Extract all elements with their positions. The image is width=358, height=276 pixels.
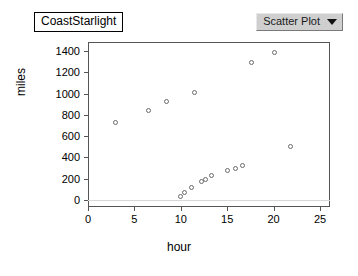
x-axis-tick-label: 15 [212, 214, 242, 225]
x-axis-tick-label: 10 [166, 214, 196, 225]
y-axis-tick [84, 200, 88, 201]
data-point[interactable] [209, 173, 214, 178]
y-axis-tick-label: 400 [62, 152, 80, 163]
y-axis-tick [84, 94, 88, 95]
x-axis-tick [181, 207, 182, 211]
scatter-plot: 02004006008001000120014000510152025 mile… [0, 0, 358, 276]
y-axis-tick [84, 115, 88, 116]
x-axis-tick-label: 0 [73, 214, 103, 225]
x-axis-tick-label: 20 [259, 214, 289, 225]
y-axis-tick [84, 51, 88, 52]
x-axis-title: hour [0, 240, 358, 254]
x-axis-tick-label: 25 [305, 214, 335, 225]
y-axis-tick-label: 600 [62, 131, 80, 142]
x-axis-tick [88, 207, 89, 211]
y-axis-tick-label: 1400 [56, 46, 80, 57]
y-axis-tick [84, 72, 88, 73]
y-axis-tick [84, 179, 88, 180]
y-axis-tick-label: 1000 [56, 89, 80, 100]
x-axis-tick [320, 207, 321, 211]
x-axis-tick [227, 207, 228, 211]
y-axis-tick-label: 200 [62, 174, 80, 185]
data-point[interactable] [225, 168, 230, 173]
gridline-zero [88, 200, 330, 201]
y-axis-tick-label: 1200 [56, 67, 80, 78]
x-axis-tick [274, 207, 275, 211]
y-axis-tick [84, 136, 88, 137]
y-axis-tick-label: 800 [62, 110, 80, 121]
y-axis-tick-label: 0 [74, 195, 80, 206]
plot-frame [88, 42, 330, 207]
data-point[interactable] [164, 99, 169, 104]
x-axis-tick-label: 5 [119, 214, 149, 225]
data-point[interactable] [146, 108, 151, 113]
y-axis-tick [84, 157, 88, 158]
data-point[interactable] [233, 166, 238, 171]
data-point[interactable] [272, 50, 277, 55]
y-axis-title: miles [14, 68, 28, 96]
x-axis-tick [134, 207, 135, 211]
